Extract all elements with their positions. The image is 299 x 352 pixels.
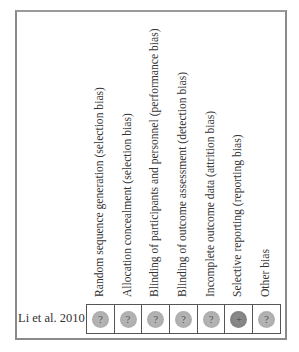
domain-header: Blinding of participants and personnel (… [141, 7, 169, 297]
domain-header-label: Blinding of outcome assessment (detectio… [177, 72, 189, 297]
judgement-cell: ? [170, 305, 198, 333]
domain-header-label: Selective reporting (reporting bias) [232, 134, 244, 297]
unclear-risk-icon: ? [120, 311, 137, 328]
domain-header-label: Other bias [260, 249, 272, 297]
domain-header: Random sequence generation (selection bi… [86, 7, 114, 297]
domain-header-label: Blinding of participants and personnel (… [149, 28, 161, 297]
low-risk-icon: + [230, 311, 247, 328]
judgement-symbol: ? [264, 314, 269, 325]
judgement-cell: ? [115, 305, 143, 333]
study-name: Li et al. 2010 [18, 311, 84, 326]
judgement-symbol: ? [153, 314, 158, 325]
domain-header-label: Allocation concealment (selection bias) [122, 113, 134, 297]
domain-header-label: Incomplete outcome data (attrition bias) [205, 111, 217, 297]
judgement-symbol: ? [209, 314, 214, 325]
judgement-cell: ? [253, 305, 281, 333]
domain-header: Incomplete outcome data (attrition bias) [197, 7, 225, 297]
unclear-risk-icon: ? [147, 311, 164, 328]
judgement-cells: ? ? ? ? ? + ? [86, 304, 281, 334]
judgement-cell: + [225, 305, 253, 333]
judgement-cell: ? [142, 305, 170, 333]
judgement-symbol: ? [181, 314, 186, 325]
domain-header-label: Random sequence generation (selection bi… [94, 87, 106, 297]
judgement-symbol: ? [98, 314, 103, 325]
judgement-cell: ? [198, 305, 226, 333]
unclear-risk-icon: ? [258, 311, 275, 328]
unclear-risk-icon: ? [92, 311, 109, 328]
judgement-cell: ? [87, 305, 115, 333]
unclear-risk-icon: ? [203, 311, 220, 328]
domain-headers: Random sequence generation (selection bi… [86, 12, 280, 303]
domain-header: Blinding of outcome assessment (detectio… [169, 7, 197, 297]
domain-header: Other bias [252, 7, 280, 297]
judgement-symbol: + [236, 314, 242, 325]
domain-header: Allocation concealment (selection bias) [114, 7, 142, 297]
judgement-symbol: ? [126, 314, 131, 325]
domain-header: Selective reporting (reporting bias) [225, 7, 253, 297]
unclear-risk-icon: ? [175, 311, 192, 328]
